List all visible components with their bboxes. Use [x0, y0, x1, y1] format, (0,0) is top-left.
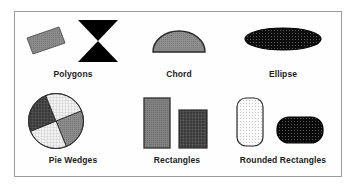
ellipse-illustration: [231, 17, 335, 65]
label-rounded-rectangles: Rounded Rectangles: [223, 155, 343, 165]
tall-rounded-rectangle: [237, 98, 263, 146]
figure-frame: Polygons Chord: [14, 11, 342, 177]
shape-group-pie-wedges: [21, 90, 125, 156]
shape-group-rectangles: [129, 90, 225, 156]
flat-ellipse: [245, 28, 321, 50]
rotated-rectangle-polygon: [27, 27, 65, 54]
label-pie-wedges: Pie Wedges: [21, 155, 125, 165]
chord-illustration: [133, 17, 225, 65]
figure-canvas: Polygons Chord: [0, 0, 357, 191]
label-polygons: Polygons: [21, 69, 125, 79]
label-chord: Chord: [133, 69, 225, 79]
tall-rectangle: [144, 98, 170, 148]
pie-wedges-illustration: [21, 90, 125, 156]
bowtie-polygon: [78, 20, 118, 62]
shape-group-rounded-rectangles: [227, 90, 339, 156]
shape-group-ellipse: [231, 17, 335, 65]
rounded-rectangles-illustration: [227, 90, 339, 156]
rectangles-illustration: [129, 90, 225, 156]
shape-group-chord: [133, 17, 225, 65]
semicircle-chord: [153, 31, 205, 52]
short-rectangle: [179, 110, 207, 148]
label-ellipse: Ellipse: [231, 69, 335, 79]
label-rectangles: Rectangles: [129, 155, 225, 165]
pie-chart: [28, 93, 83, 148]
wide-rounded-rectangle: [277, 117, 323, 143]
shape-group-polygons: [21, 17, 125, 65]
polygons-illustration: [21, 17, 125, 65]
